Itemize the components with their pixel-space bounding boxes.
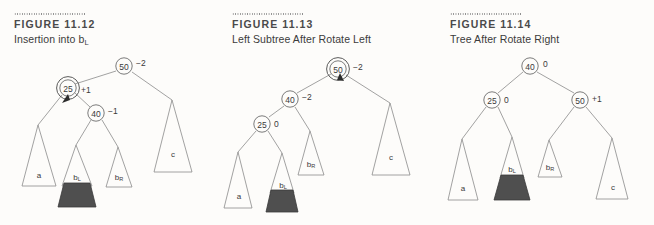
edge-40-br xyxy=(295,107,310,131)
edge-40-50 xyxy=(537,72,574,93)
edge-25-a xyxy=(238,131,256,152)
tree-diagram-1: a bL bR c 50 −2 25 +1 40 −1 xyxy=(0,0,218,225)
edge-50-25 xyxy=(75,71,116,84)
node-50-key: 50 xyxy=(575,96,585,106)
subtree-bl-shaded xyxy=(58,183,96,207)
node-25-balance: 0 xyxy=(504,95,509,105)
node-25-key: 25 xyxy=(63,84,73,94)
subtree-c-label: c xyxy=(389,153,393,162)
node-25-key: 25 xyxy=(257,120,267,130)
node-25-key: 25 xyxy=(487,96,497,106)
subtree-c xyxy=(154,100,192,172)
figure-11-13: FIGURE 11.13 Left Subtree After Rotate L… xyxy=(218,0,436,225)
subtree-c xyxy=(372,103,410,175)
edge-40-bl xyxy=(76,120,91,145)
node-40-balance: −1 xyxy=(108,106,118,116)
subtree-a-label: a xyxy=(461,184,466,193)
edge-50-c xyxy=(586,107,612,138)
edge-40-25 xyxy=(269,106,284,117)
node-40-balance: −2 xyxy=(302,92,312,102)
subtree-c-label: c xyxy=(171,150,175,159)
figure-11-12: FIGURE 11.12 Insertion into bL a bL bR c xyxy=(0,0,218,225)
tree-diagram-2: a bL bR c 50 −2 40 −2 25 0 xyxy=(218,0,436,225)
node-40-balance: 0 xyxy=(543,59,548,69)
figure-11-14: FIGURE 11.14 Tree After Rotate Right a b… xyxy=(436,0,654,225)
edge-50-40 xyxy=(297,74,331,93)
subtree-a-label: a xyxy=(37,171,42,180)
edge-25-bl xyxy=(268,131,282,153)
subtree-a-label: a xyxy=(237,192,242,201)
edge-50-br xyxy=(549,107,574,140)
node-50-balance: +1 xyxy=(592,94,602,104)
node-50-key: 50 xyxy=(333,65,343,75)
subtree-bl-shaded xyxy=(494,175,530,200)
edge-25-a xyxy=(38,95,62,125)
edge-25-a xyxy=(462,107,486,139)
tree-diagram-3: a bL bR c 40 0 25 0 50 +1 xyxy=(436,0,654,225)
edge-50-c xyxy=(346,75,390,103)
node-40-key: 40 xyxy=(285,95,295,105)
subtree-bl-shaded xyxy=(266,190,298,212)
node-25-balance: +1 xyxy=(81,85,91,95)
node-50-balance: −2 xyxy=(136,58,146,68)
edge-40-25 xyxy=(498,72,523,93)
edge-25-bl xyxy=(498,107,512,137)
subtree-c-label: c xyxy=(611,183,615,192)
node-50-key: 50 xyxy=(119,62,129,72)
node-40-key: 40 xyxy=(91,109,101,119)
edge-40-br xyxy=(102,120,118,147)
node-50-balance: −2 xyxy=(353,62,363,72)
node-25-balance: 0 xyxy=(274,119,279,129)
figure-page: FIGURE 11.12 Insertion into bL a bL bR c xyxy=(0,0,654,225)
node-40-key: 40 xyxy=(525,62,535,72)
edge-50-c xyxy=(132,72,172,100)
